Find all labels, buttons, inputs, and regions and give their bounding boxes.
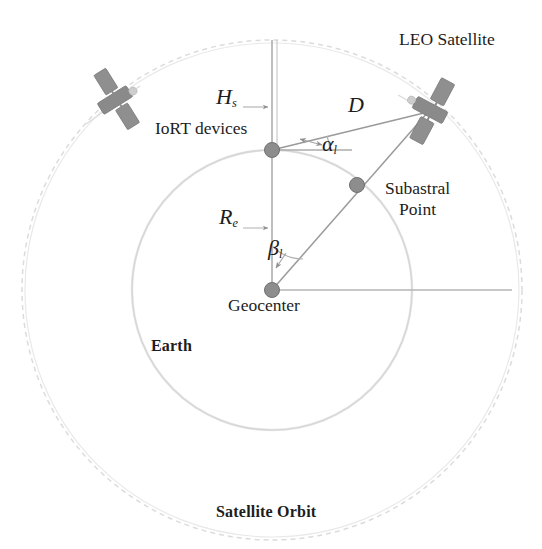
elevation-angle-symbol-subscript: l <box>334 143 337 157</box>
altitude-symbol-subscript: s <box>232 96 237 110</box>
central-angle-symbol: βl <box>268 236 282 261</box>
slant-distance-symbol: D <box>348 93 364 117</box>
satellite-orbit-label: Satellite Orbit <box>216 503 316 520</box>
earth-radius-symbol-base: R <box>219 204 232 229</box>
altitude-symbol-base: H <box>216 84 232 109</box>
satellite-panel-strut-lower-secondary <box>120 104 121 106</box>
satellite-geometry-figure: LEO Satellite IoRT devices Subastral Poi… <box>0 0 542 549</box>
altitude-symbol: Hs <box>216 85 237 110</box>
central-angle-symbol-base: β <box>268 235 279 260</box>
central-angle-symbol-subscript: l <box>279 247 282 261</box>
satellite-solar-panel-upper-secondary <box>94 68 118 95</box>
diagram-canvas <box>0 0 542 549</box>
earth-radius-symbol: Re <box>219 205 238 230</box>
subastral-point-label: Subastral Point <box>385 178 450 219</box>
satellite-panel-strut-lower <box>428 117 430 120</box>
leo-satellite-label: LEO Satellite <box>399 30 495 49</box>
iort-devices-node <box>265 143 280 158</box>
subastral-point-label-line1: Subastral <box>385 178 450 198</box>
slant-range-line <box>272 112 428 150</box>
elevation-angle-symbol-base: α <box>322 131 334 156</box>
elevation-angle-symbol: αl <box>322 132 337 157</box>
earth-radius-symbol-subscript: e <box>232 216 237 230</box>
satellite-panel-strut-upper <box>435 102 437 105</box>
geocenter-label: Geocenter <box>228 296 300 315</box>
satellite-solar-panel-lower-secondary <box>116 103 140 130</box>
iort-devices-label: IoRT devices <box>155 119 247 138</box>
subastral-point-node <box>350 178 365 193</box>
satellite-solar-panel-lower <box>410 116 435 144</box>
satellite-panel-strut-upper-secondary <box>112 91 113 93</box>
earth-label: Earth <box>151 337 192 354</box>
leo-satellite-icon-secondary <box>84 60 153 136</box>
satellite-solar-panel-upper <box>430 78 455 106</box>
subastral-point-label-line2: Point <box>399 199 436 219</box>
